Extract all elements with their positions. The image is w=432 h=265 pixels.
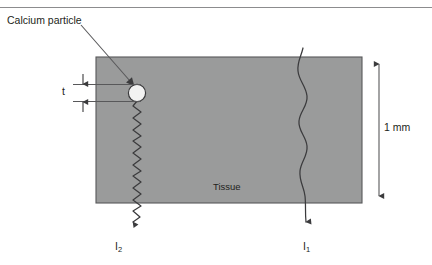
beam-label-i2: I2 (115, 241, 122, 252)
calcium-particle-label: Calcium particle (7, 15, 82, 26)
beam-label-i1-subscript: 1 (306, 245, 310, 254)
beam-label-i2-subscript: 2 (118, 245, 122, 254)
figure-root: Calcium particle t Tissue 1 mm I2 I1 (0, 0, 432, 265)
beam-label-i1: I1 (303, 241, 310, 252)
figure-canvas (0, 0, 432, 265)
calcium-particle (128, 84, 145, 101)
tissue-label: Tissue (213, 182, 241, 192)
thickness-label: t (62, 86, 65, 97)
depth-label: 1 mm (384, 122, 410, 133)
